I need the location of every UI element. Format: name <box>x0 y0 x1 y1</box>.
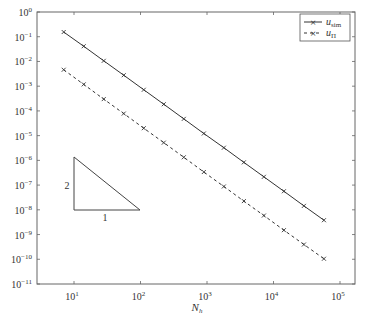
data-point-marker <box>82 82 86 86</box>
y-tick-label: 10−1 <box>15 31 33 43</box>
data-point-marker <box>122 112 126 116</box>
slope-run-label: 1 <box>103 212 108 223</box>
data-point-marker <box>262 175 266 179</box>
x-tick-label: 103 <box>198 290 212 302</box>
slope-triangle-shape <box>74 157 140 210</box>
slope-triangle: 2 1 <box>65 157 141 223</box>
convergence-chart: 10010−110−210−310−410−510−610−710−810−91… <box>0 0 366 325</box>
x-tick-label: 104 <box>265 290 279 302</box>
data-point-marker <box>62 30 66 34</box>
y-tick-label: 10−8 <box>15 204 33 216</box>
y-tick-label: 10−2 <box>15 55 33 67</box>
y-tick-label: 10−7 <box>15 179 33 191</box>
data-point-marker <box>262 214 266 218</box>
data-point-marker <box>142 126 146 130</box>
data-point-marker <box>222 146 226 150</box>
data-point-marker <box>122 73 126 77</box>
data-point-marker <box>282 189 286 193</box>
data-point-marker <box>182 155 186 159</box>
data-point-marker <box>242 199 246 203</box>
y-tick-label: 10−6 <box>15 154 33 166</box>
data-series <box>62 30 326 261</box>
legend-marker-pi: × <box>310 29 317 38</box>
y-tick-label: 10−11 <box>11 278 32 290</box>
data-point-marker <box>102 97 106 101</box>
data-point-marker <box>62 68 66 72</box>
data-point-marker <box>142 88 146 92</box>
legend-marker-sim: × <box>310 18 317 27</box>
data-point-marker <box>242 160 246 164</box>
data-point-marker <box>82 44 86 48</box>
legend: × usim × uΠ <box>300 14 350 41</box>
data-point-marker <box>182 117 186 121</box>
data-point-marker <box>322 257 326 261</box>
plot-frame <box>37 12 355 284</box>
y-tick-label: 10−4 <box>15 105 33 117</box>
x-axis-label: Nh <box>191 301 203 315</box>
y-tick-label: 10−9 <box>15 229 33 241</box>
data-point-marker <box>162 102 166 106</box>
data-point-marker <box>202 132 206 136</box>
axis-ticks: 10010−110−210−310−410−510−610−710−810−91… <box>11 6 355 302</box>
data-point-marker <box>322 218 326 222</box>
data-point-marker <box>162 141 166 145</box>
y-tick-label: 10−3 <box>15 80 33 92</box>
data-point-marker <box>202 170 206 174</box>
x-tick-label: 102 <box>132 290 146 302</box>
y-tick-label: 10−10 <box>11 253 32 265</box>
data-point-marker <box>222 184 226 188</box>
plot-area-border <box>37 12 355 284</box>
data-point-marker <box>302 204 306 208</box>
y-tick-label: 10−5 <box>15 130 33 142</box>
legend-box <box>300 14 350 41</box>
x-tick-label: 105 <box>331 290 345 302</box>
y-tick-label: 100 <box>19 6 33 18</box>
x-tick-label: 101 <box>65 290 79 302</box>
data-point-marker <box>282 228 286 232</box>
data-point-marker <box>102 59 106 63</box>
slope-rise-label: 2 <box>65 180 70 191</box>
data-point-marker <box>302 243 306 247</box>
